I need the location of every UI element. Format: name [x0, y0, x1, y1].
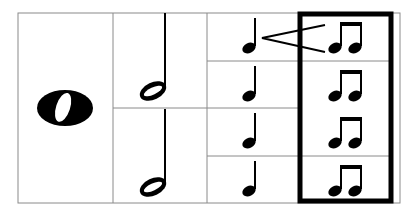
half-note-cells [137, 13, 170, 201]
quarter-note-icon [241, 161, 258, 198]
half-note-icon [137, 13, 170, 105]
quarter-note-icon [241, 18, 258, 55]
eighth-note-pair-icon [327, 22, 364, 55]
highlight-box [300, 14, 391, 201]
whole-note-cell [37, 90, 93, 126]
eighth-note-pair-icon [327, 117, 364, 150]
eighth-note-cells [327, 22, 364, 198]
half-note-icon [137, 109, 170, 201]
whole-note-icon [37, 90, 93, 126]
eighth-note-pair-icon [327, 165, 364, 198]
quarter-note-icon [241, 66, 258, 103]
note-value-diagram [0, 0, 410, 216]
quarter-note-icon [241, 113, 258, 150]
eighth-note-pair-icon [327, 70, 364, 103]
split-bracket-icon [262, 25, 325, 52]
